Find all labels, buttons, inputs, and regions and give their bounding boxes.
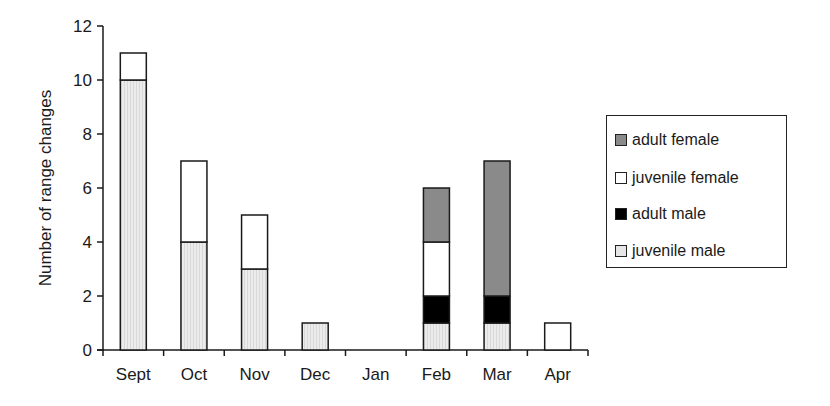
legend-item-juvenile-male: juvenile male: [615, 241, 725, 261]
bar-segment-juvenile-male-nov: [242, 269, 268, 350]
bar-segment-juvenile-female-sept: [120, 53, 146, 80]
x-tick-label: Apr: [544, 365, 571, 384]
y-tick-label: 12: [73, 17, 92, 36]
y-tick-label: 10: [73, 71, 92, 90]
juvenile-male-swatch-icon: [615, 245, 627, 257]
bar-segment-juvenile-male-feb: [423, 323, 449, 350]
bar-segment-juvenile-female-nov: [242, 215, 268, 269]
adult-male-swatch-icon: [615, 208, 627, 220]
bar-segment-juvenile-male-mar: [484, 323, 510, 350]
bar-segment-adult-male-feb: [423, 296, 449, 323]
legend-label: juvenile female: [632, 169, 739, 187]
bar-segment-juvenile-male-oct: [181, 242, 207, 350]
legend-label: adult male: [632, 205, 706, 223]
x-tick-label: Nov: [239, 365, 270, 384]
x-tick-label: Oct: [181, 365, 208, 384]
x-tick-label: Jan: [362, 365, 389, 384]
bar-segment-adult-female-mar: [484, 161, 510, 296]
legend-label: juvenile male: [632, 242, 725, 260]
x-tick-label: Sept: [116, 365, 151, 384]
bar-segment-juvenile-male-dec: [302, 323, 328, 350]
y-tick-label: 0: [83, 341, 92, 360]
bar-segment-adult-female-feb: [423, 188, 449, 242]
legend-item-adult-male: adult male: [615, 204, 706, 224]
bar-segment-adult-male-mar: [484, 296, 510, 323]
x-tick-label: Dec: [300, 365, 331, 384]
y-tick-label: 8: [83, 125, 92, 144]
bar-segment-juvenile-female-feb: [423, 242, 449, 296]
x-tick-label: Feb: [422, 365, 451, 384]
legend-label: adult female: [632, 131, 719, 149]
y-tick-label: 4: [83, 233, 92, 252]
bar-segment-juvenile-female-oct: [181, 161, 207, 242]
bar-segment-juvenile-male-sept: [120, 80, 146, 350]
y-tick-label: 2: [83, 287, 92, 306]
x-axis: SeptOctNovDecJanFebMarApr: [97, 350, 588, 384]
y-axis: 024681012: [73, 17, 103, 360]
legend-item-juvenile-female: juvenile female: [615, 168, 739, 188]
bar-segment-juvenile-female-apr: [545, 323, 571, 350]
adult-female-swatch-icon: [615, 134, 627, 146]
legend-item-adult-female: adult female: [615, 130, 719, 150]
juvenile-female-swatch-icon: [615, 172, 627, 184]
bars: [120, 53, 570, 350]
x-tick-label: Mar: [482, 365, 512, 384]
y-axis-label: Number of range changes: [36, 90, 55, 287]
legend: adult female juvenile female adult male …: [606, 115, 787, 268]
y-tick-label: 6: [83, 179, 92, 198]
